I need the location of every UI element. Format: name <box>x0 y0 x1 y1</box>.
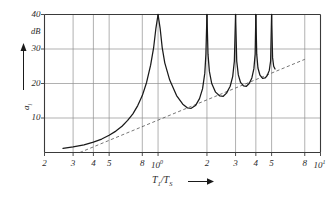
x-tick-base: 10 <box>314 160 323 170</box>
x-tick-label: 3 <box>66 159 80 168</box>
x-title-divider: /T <box>161 174 169 185</box>
y-tick-label: 20 <box>27 79 41 88</box>
y-axis-symbol-subscript: i <box>27 104 33 106</box>
x-title-sub2: S <box>169 180 172 187</box>
x-tick-label: 2 <box>38 159 52 168</box>
y-axis-title: ai <box>22 104 33 110</box>
x-tick-label: 100 <box>151 159 171 170</box>
gridlines-group <box>45 15 321 153</box>
x-tick-label: 4 <box>249 159 263 168</box>
asymptote-line <box>80 59 305 152</box>
x-tick-label: 4 <box>86 159 100 168</box>
x-tick-label: 3 <box>229 159 243 168</box>
x-tick-label: 2 <box>200 159 214 168</box>
y-axis-unit-label: dB <box>27 27 41 36</box>
figure-container: 40302010 2345810023458101 dB ai T1/TS <box>0 0 334 197</box>
x-tick-base: 10 <box>151 160 160 170</box>
x-axis-title: T1/TS <box>152 175 172 188</box>
y-axis-symbol: a <box>21 106 31 111</box>
x-axis-arrow-icon <box>188 178 214 184</box>
y-tick-label: 40 <box>27 10 41 19</box>
x-tick-label: 8 <box>135 159 149 168</box>
x-tick-label: 8 <box>298 159 312 168</box>
y-tick-label: 30 <box>27 44 41 53</box>
tickmarks-group <box>41 15 321 157</box>
x-tick-label: 5 <box>265 159 279 168</box>
y-tick-label: 10 <box>27 113 41 122</box>
x-tick-exponent: 1 <box>323 159 326 165</box>
x-tick-label: 5 <box>102 159 116 168</box>
x-tick-label: 101 <box>314 159 334 170</box>
attenuation-curve <box>63 15 275 149</box>
x-tick-exponent: 0 <box>160 159 163 165</box>
